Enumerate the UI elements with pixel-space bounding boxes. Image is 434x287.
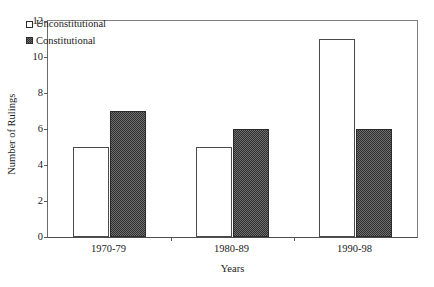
y-axis-tick-label: 8	[38, 88, 43, 99]
bar-constitutional-1980-89	[233, 129, 270, 237]
x-axis-title: Years	[47, 264, 418, 275]
legend-item-unconstitutional: Unconstitutional	[26, 19, 106, 30]
y-axis-tick	[44, 129, 48, 130]
plot-frame: 024681012	[47, 20, 418, 238]
y-axis-title: Number of Rulings	[7, 69, 18, 199]
legend-swatch-unconstitutional-icon	[26, 21, 33, 28]
x-axis-tick	[294, 237, 295, 241]
y-axis-tick	[44, 57, 48, 58]
bar-unconstitutional-1990-98	[319, 39, 356, 237]
x-axis-category-label: 1990-98	[337, 244, 372, 255]
bar-unconstitutional-1970-79	[73, 147, 110, 237]
x-axis-category-label: 1970-79	[91, 244, 126, 255]
x-axis-category-label: 1980-89	[214, 244, 249, 255]
bar-chart-figure: Number of Rulings 024681012 Years Uncons…	[0, 0, 434, 287]
y-axis-tick	[44, 93, 48, 94]
y-axis-tick	[44, 201, 48, 202]
y-axis-tick-label: 2	[38, 196, 43, 207]
x-axis-tick	[171, 237, 172, 241]
y-axis-tick-label: 0	[38, 232, 43, 243]
legend-item-constitutional: Constitutional	[26, 36, 106, 47]
y-axis-tick-label: 4	[38, 160, 43, 171]
y-axis-tick-label: 10	[33, 52, 44, 63]
legend-label-unconstitutional: Unconstitutional	[36, 19, 106, 30]
y-axis-tick	[44, 237, 48, 238]
bar-unconstitutional-1980-89	[196, 147, 233, 237]
plot-area: 024681012	[48, 21, 417, 237]
legend-label-constitutional: Constitutional	[36, 36, 96, 47]
chart-legend: Unconstitutional Constitutional	[26, 19, 106, 52]
y-axis-tick	[44, 165, 48, 166]
bar-constitutional-1970-79	[110, 111, 147, 237]
y-axis-tick-label: 6	[38, 124, 43, 135]
bar-constitutional-1990-98	[356, 129, 393, 237]
legend-swatch-constitutional-icon	[26, 37, 33, 44]
